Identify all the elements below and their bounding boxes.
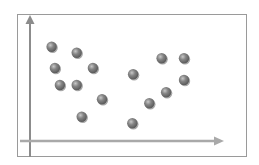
chart-canvas <box>0 0 259 165</box>
scatter-plot <box>0 0 259 165</box>
data-point <box>128 69 138 79</box>
data-point <box>179 75 189 85</box>
data-point <box>77 112 87 122</box>
data-point <box>46 42 56 52</box>
data-point <box>55 80 65 90</box>
data-points <box>46 42 189 129</box>
x-axis-arrow-icon <box>214 137 224 146</box>
x-axis <box>20 137 224 146</box>
data-point <box>50 63 60 73</box>
data-point <box>127 118 137 128</box>
y-axis <box>26 15 35 157</box>
data-point <box>161 87 171 97</box>
data-point <box>72 80 82 90</box>
data-point <box>72 48 82 58</box>
y-axis-arrow-icon <box>26 15 35 24</box>
data-point <box>144 98 154 108</box>
data-point <box>88 63 98 73</box>
data-point <box>156 53 166 63</box>
data-point <box>97 94 107 104</box>
data-point <box>179 53 189 63</box>
